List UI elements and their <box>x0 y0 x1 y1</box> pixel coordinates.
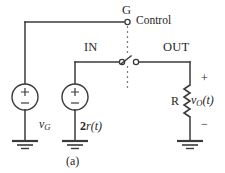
input-source-label: 2r(t) <box>80 120 102 132</box>
gate-source-ground <box>12 141 38 149</box>
circuit-diagram-figure: G Control IN OUT R vO(t) + − vG 2r(t) (a… <box>0 0 225 173</box>
output-voltage-label: vO(t) <box>191 94 214 108</box>
switch-right-contact-icon[interactable] <box>133 59 138 64</box>
resistor-label: R <box>171 95 179 107</box>
input-source-symbol <box>62 84 88 110</box>
input-node-label: IN <box>84 41 98 54</box>
output-voltage-arg: (t) <box>202 93 213 107</box>
circuit-schematic-svg <box>0 0 225 173</box>
gate-source-subscript: G <box>44 122 50 132</box>
gate-terminal-icon[interactable] <box>125 19 130 24</box>
figure-caption: (a) <box>66 155 79 167</box>
control-label: Control <box>136 15 171 27</box>
resistor-symbol <box>184 85 190 117</box>
output-ground <box>177 141 203 149</box>
output-plus-sign: + <box>201 72 208 84</box>
gate-node-label: G <box>122 4 131 17</box>
input-source-ground <box>62 141 88 149</box>
gate-source-symbol <box>12 84 38 110</box>
output-node-label: OUT <box>163 41 189 54</box>
output-minus-sign: − <box>201 118 208 130</box>
gate-source-label: vG <box>39 118 50 132</box>
input-source-arg: (t) <box>91 119 102 133</box>
